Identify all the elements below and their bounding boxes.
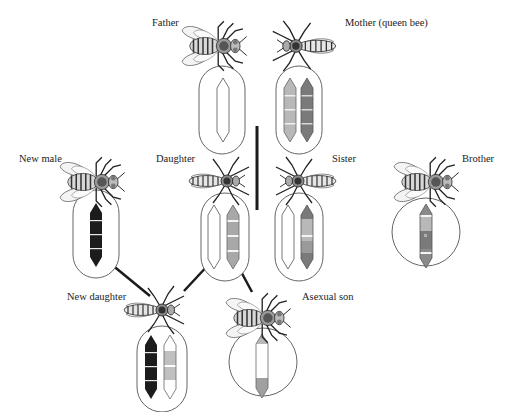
cell-capsule (276, 66, 322, 154)
diagram-canvas (0, 0, 508, 412)
chromosome-white-grey (164, 335, 176, 399)
individual-new-male (60, 157, 125, 278)
individual-new-daughter (124, 286, 187, 412)
label-father: Father (152, 17, 179, 28)
individual-brother (392, 157, 460, 268)
chromosome-light-grey (284, 78, 296, 142)
label-sister: Sister (332, 153, 356, 164)
chromosome-mixed-grey (420, 204, 432, 268)
label-daughter: Daughter (156, 153, 195, 164)
individual-daughter (189, 157, 249, 281)
chromosome-white-grey (256, 334, 268, 398)
individual-father (182, 21, 247, 154)
individual-sister (275, 157, 336, 281)
bee-inheritance-diagram: Father Mother (queen bee) New male Daugh… (0, 0, 508, 412)
chromosome-light-grey (227, 205, 239, 269)
individual-mother (273, 21, 336, 154)
chromosome-mixed-grey (301, 205, 313, 269)
chromosome-dark-grey (301, 78, 313, 142)
label-new-male: New male (19, 153, 62, 164)
label-mother: Mother (queen bee) (345, 17, 428, 28)
label-asexual-son: Asexual son (302, 291, 354, 302)
cell-capsule (137, 326, 187, 412)
male-bee-icon (182, 21, 247, 70)
chromosome-white (282, 205, 294, 269)
label-new-daughter: New daughter (67, 291, 126, 302)
chromosome-white (208, 205, 220, 269)
chromosome-white (217, 78, 229, 142)
chromosome-black (145, 335, 157, 399)
chromosome-black (90, 203, 102, 267)
individual-asexual-son (226, 293, 297, 398)
label-brother: Brother (462, 153, 494, 164)
queen-bee-icon (273, 21, 336, 71)
